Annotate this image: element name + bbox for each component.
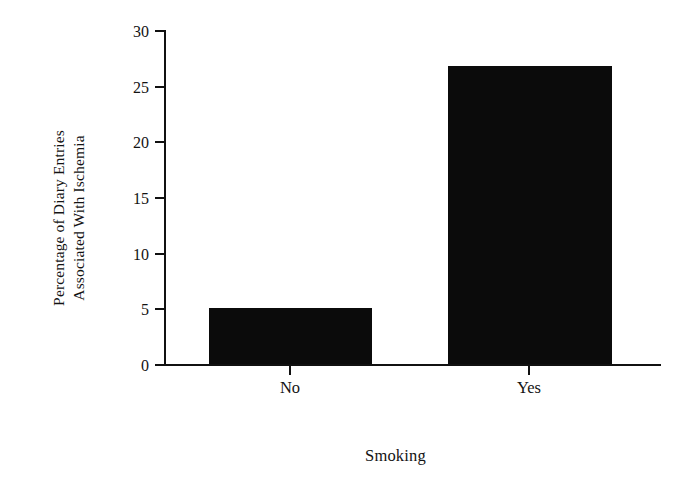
x-axis-title-text: Smoking — [365, 446, 426, 465]
x-tick-label-yes: Yes — [517, 378, 541, 398]
y-tick-label-15: 15 — [133, 191, 149, 207]
y-tick-label-25: 25 — [133, 80, 149, 96]
y-tick-label-10: 10 — [133, 247, 149, 263]
y-tick-15: 15 — [155, 197, 165, 199]
y-tick-label-0: 0 — [141, 358, 149, 374]
y-tick-0: 0 — [155, 364, 165, 366]
y-tick-label-30: 30 — [133, 24, 149, 40]
x-tick-no — [289, 366, 291, 375]
x-axis-line — [164, 364, 661, 366]
x-tick-yes — [528, 366, 530, 375]
x-tick-label-no: No — [280, 378, 300, 398]
y-tick-label-5: 5 — [141, 302, 149, 318]
y-axis-title: Percentage of Diary Entries Associated W… — [46, 63, 92, 373]
y-tick-30: 30 — [155, 30, 165, 32]
x-axis-title: Smoking — [0, 446, 687, 466]
y-axis-title-line-1: Percentage of Diary Entries — [49, 130, 69, 306]
y-tick-25: 25 — [155, 86, 165, 88]
bar-chart-figure: Percentage of Diary Entries Associated W… — [0, 0, 687, 479]
bar-yes — [448, 66, 612, 364]
y-tick-5: 5 — [155, 308, 165, 310]
bar-no — [209, 308, 372, 364]
y-tick-20: 20 — [155, 141, 165, 143]
y-tick-10: 10 — [155, 253, 165, 255]
y-tick-label-20: 20 — [133, 135, 149, 151]
y-axis-title-line-2: Associated With Ischemia — [69, 135, 89, 300]
